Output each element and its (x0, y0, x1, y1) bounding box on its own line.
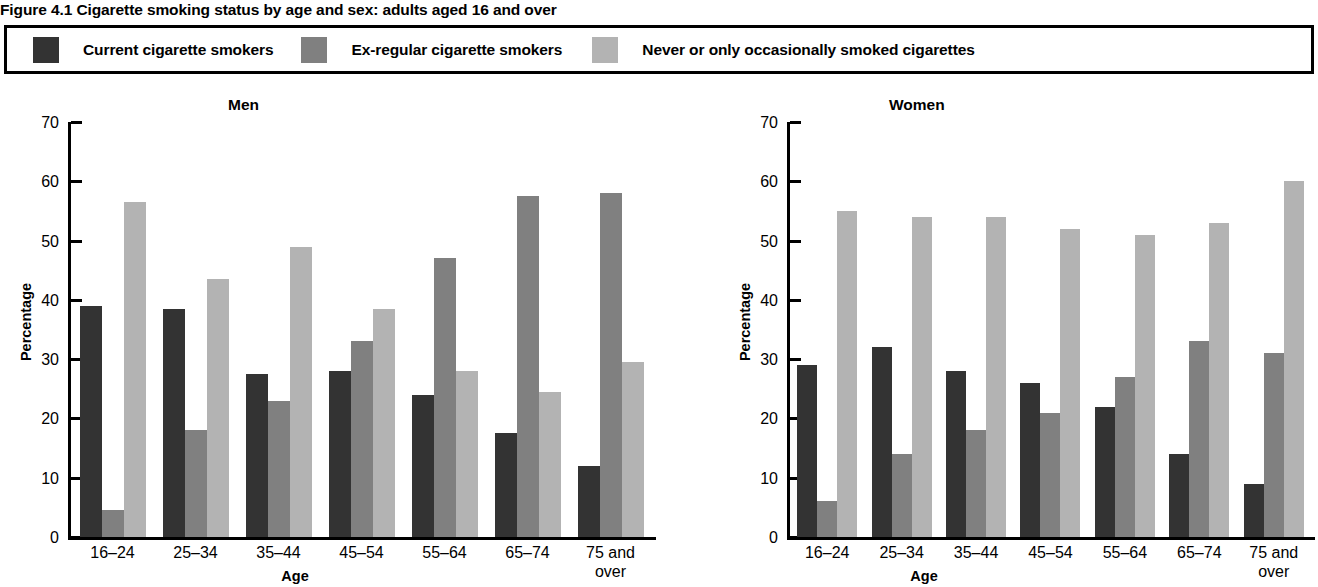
bar-1[interactable] (351, 341, 373, 537)
x-tick-label: 45–54 (1013, 543, 1087, 562)
y-tick-label: 50 (760, 233, 778, 251)
bar-0[interactable] (946, 371, 966, 537)
bar-2[interactable] (539, 392, 561, 537)
legend-item-0[interactable]: Current cigarette smokers (33, 37, 273, 63)
bar-group: 55–64 (1088, 122, 1162, 537)
bar-0[interactable] (1244, 484, 1264, 537)
bar-group: 55–64 (403, 122, 486, 537)
bar-1[interactable] (1115, 377, 1135, 537)
plot-area-women: 010203040506070 16–2425–3435–4445–5455–6… (787, 122, 1311, 537)
legend-item-1[interactable]: Ex-regular cigarette smokers (301, 37, 562, 63)
bar-2[interactable] (1284, 181, 1304, 537)
bar-0[interactable] (1020, 383, 1040, 537)
bar-group: 35–44 (237, 122, 320, 537)
bar-0[interactable] (578, 466, 600, 537)
bar-1[interactable] (517, 196, 539, 537)
y-tick-label: 30 (760, 351, 778, 369)
y-tick-label: 30 (41, 351, 59, 369)
y-tick-label: 50 (41, 233, 59, 251)
y-tick-label: 60 (41, 173, 59, 191)
chart-panel-men: Men Percentage 010203040506070 16–2425–3… (0, 96, 659, 587)
y-axis-label-women: Percentage (737, 262, 753, 382)
bar-group: 25–34 (864, 122, 938, 537)
bar-1[interactable] (966, 430, 986, 537)
bar-group: 25–34 (154, 122, 237, 537)
bar-group: 45–54 (320, 122, 403, 537)
bar-2[interactable] (622, 362, 644, 537)
bar-2[interactable] (1060, 229, 1080, 537)
legend-item-label: Current cigarette smokers (83, 41, 273, 59)
y-tick-label: 40 (41, 292, 59, 310)
bar-0[interactable] (1095, 407, 1115, 537)
bar-0[interactable] (163, 309, 185, 537)
bar-1[interactable] (185, 430, 207, 537)
bar-0[interactable] (495, 433, 517, 537)
y-tick-label: 0 (769, 529, 778, 547)
x-tick-label: 16–24 (71, 543, 154, 562)
x-tick-label: 55–64 (1088, 543, 1162, 562)
figure-title: Figure 4.1 Cigarette smoking status by a… (0, 0, 1318, 20)
y-axis-label-men: Percentage (18, 262, 34, 382)
y-tick-label: 0 (50, 529, 59, 547)
bar-group: 16–24 (71, 122, 154, 537)
bar-1[interactable] (892, 454, 912, 537)
x-axis-label-women: Age (662, 568, 1186, 584)
bar-1[interactable] (1264, 353, 1284, 537)
x-axis-spine-men (68, 537, 656, 540)
bar-0[interactable] (797, 365, 817, 537)
bar-0[interactable] (412, 395, 434, 537)
bar-groups-men: 16–2425–3435–4445–5455–6465–7475 andover (71, 122, 652, 537)
bar-2[interactable] (986, 217, 1006, 537)
panel-title-women: Women (659, 96, 1318, 114)
x-tick-label: 75 andover (1237, 543, 1311, 581)
x-tick-label: 25–34 (864, 543, 938, 562)
x-axis-spine-women (787, 537, 1315, 540)
x-tick-label: 35–44 (237, 543, 320, 562)
bar-2[interactable] (912, 217, 932, 537)
bar-1[interactable] (102, 510, 124, 537)
y-tick-label: 10 (41, 470, 59, 488)
bar-0[interactable] (329, 371, 351, 537)
bar-group: 75 andover (569, 122, 652, 537)
bar-2[interactable] (373, 309, 395, 537)
bar-2[interactable] (207, 279, 229, 537)
y-tick-label: 20 (41, 410, 59, 428)
legend-item-label: Never or only occasionally smoked cigare… (642, 41, 974, 59)
bar-0[interactable] (872, 347, 892, 537)
x-tick-label: 45–54 (320, 543, 403, 562)
x-tick-label: 35–44 (939, 543, 1013, 562)
legend-swatch-never (592, 37, 618, 63)
bar-1[interactable] (817, 501, 837, 537)
bar-group: 65–74 (486, 122, 569, 537)
y-tick-label: 20 (760, 410, 778, 428)
x-tick-label: 65–74 (486, 543, 569, 562)
y-tick-label: 60 (760, 173, 778, 191)
bar-1[interactable] (600, 193, 622, 537)
bar-1[interactable] (1189, 341, 1209, 537)
bar-1[interactable] (434, 258, 456, 537)
y-tick-label: 70 (760, 114, 778, 132)
bar-group: 65–74 (1162, 122, 1236, 537)
legend-swatch-ex-regular (301, 37, 327, 63)
legend-item-2[interactable]: Never or only occasionally smoked cigare… (592, 37, 974, 63)
x-tick-label: 55–64 (403, 543, 486, 562)
bar-2[interactable] (124, 202, 146, 537)
bar-1[interactable] (268, 401, 290, 537)
bar-1[interactable] (1040, 413, 1060, 538)
bar-group: 45–54 (1013, 122, 1087, 537)
x-tick-label: 65–74 (1162, 543, 1236, 562)
bar-2[interactable] (456, 371, 478, 537)
bar-0[interactable] (80, 306, 102, 537)
bar-0[interactable] (246, 374, 268, 537)
bar-0[interactable] (1169, 454, 1189, 537)
bar-group: 75 andover (1237, 122, 1311, 537)
bar-2[interactable] (290, 247, 312, 538)
legend-swatch-current (33, 37, 59, 63)
y-tick-label: 40 (760, 292, 778, 310)
bar-group: 16–24 (790, 122, 864, 537)
bar-2[interactable] (1135, 235, 1155, 537)
x-axis-label-men: Age (3, 568, 587, 584)
chart-panel-women: Women Percentage 010203040506070 16–2425… (659, 96, 1318, 587)
bar-2[interactable] (1209, 223, 1229, 537)
bar-2[interactable] (837, 211, 857, 537)
